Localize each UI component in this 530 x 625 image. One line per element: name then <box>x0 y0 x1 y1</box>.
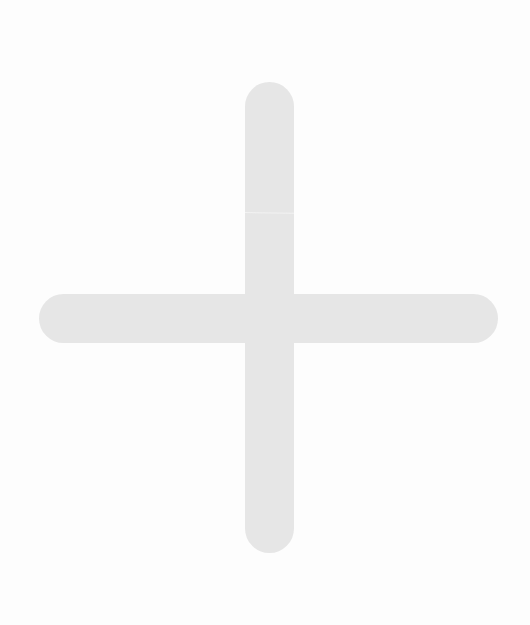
plus-horizontal-bar <box>39 294 498 343</box>
plus-icon-label: Add <box>0 0 1 1</box>
plus-icon[interactable]: Add <box>0 0 530 625</box>
canvas: Add <box>0 0 530 625</box>
